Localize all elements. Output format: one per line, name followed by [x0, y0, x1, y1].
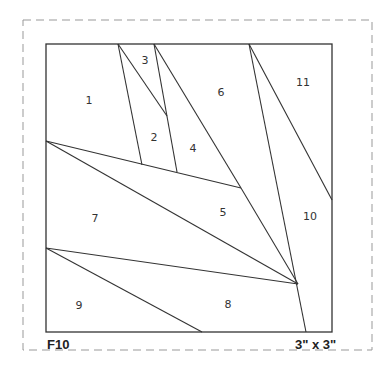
piece-number-3: 3 — [142, 54, 149, 67]
pattern-diagram — [0, 0, 373, 375]
piece-number-2: 2 — [151, 131, 158, 144]
block-outline — [46, 44, 332, 332]
piece-number-8: 8 — [225, 298, 232, 311]
piece-number-6: 6 — [218, 86, 225, 99]
piece-number-4: 4 — [190, 142, 197, 155]
piece-number-7: 7 — [92, 212, 99, 225]
pattern-id: F10 — [47, 337, 69, 352]
piece-number-9: 9 — [76, 299, 83, 312]
piece-number-10: 10 — [303, 210, 317, 223]
piece-lines — [46, 44, 332, 332]
piece-number-5: 5 — [220, 206, 227, 219]
piece-number-11: 11 — [296, 76, 310, 89]
piece-number-1: 1 — [86, 94, 93, 107]
pattern-size: 3" x 3" — [295, 337, 336, 352]
